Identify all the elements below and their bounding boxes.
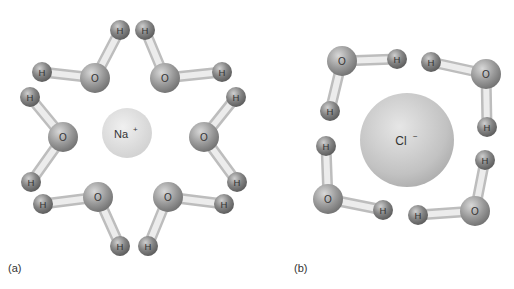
oxygen-label: O (161, 73, 169, 84)
ion-charge: + (133, 125, 138, 134)
hydrogen-label: H (323, 141, 330, 152)
hydrogen-label: H (27, 92, 34, 103)
hydrogen-label: H (117, 241, 124, 252)
ion-label: Cl (395, 134, 406, 148)
ion-charge: − (413, 132, 418, 141)
hydrogen-label: H (394, 54, 401, 65)
sodium-ion: Na+ (102, 108, 152, 158)
hydrogen-label: H (117, 25, 124, 36)
water-molecule: OHH (189, 87, 247, 192)
hydrogen-label: H (482, 155, 489, 166)
hydrogen-label: H (39, 67, 46, 78)
hydration-svg: Na+Cl− OHHOHHOHHOHHOHHOHHOHHOHHOHHOHH (0, 0, 514, 289)
oxygen-label: O (471, 206, 479, 217)
hydrogen-label: H (415, 210, 422, 221)
water-molecule: OHH (20, 87, 78, 192)
oxygen-label: O (91, 73, 99, 84)
oxygen-label: O (59, 132, 67, 143)
oxygen-label: O (482, 69, 490, 80)
hydrogen-label: H (142, 25, 149, 36)
hydrogen-label: H (219, 67, 226, 78)
hydrogen-label: H (428, 57, 435, 68)
water-molecule: OHH (135, 20, 232, 93)
oxygen-label: O (324, 194, 332, 205)
water-molecule: OHH (33, 182, 130, 256)
oxygen-label: O (94, 192, 102, 203)
panel-a-caption: (a) (8, 262, 21, 274)
hydrogen-label: H (484, 122, 491, 133)
hydrogen-label: H (233, 92, 240, 103)
hydrogen-label: H (28, 177, 35, 188)
oxygen-label: O (338, 56, 346, 67)
ion-label: Na (114, 128, 129, 140)
water-molecule: OHH (138, 182, 234, 256)
chloride-ion: Cl− (360, 93, 454, 187)
hydrogen-label: H (221, 199, 228, 210)
hydration-diagram: Na+Cl− OHHOHHOHHOHHOHHOHHOHHOHHOHHOHH (a… (0, 0, 514, 289)
water-molecule: OHH (32, 20, 130, 93)
hydrogen-label: H (380, 205, 387, 216)
hydrogen-label: H (327, 106, 334, 117)
hydrogen-label: H (234, 177, 241, 188)
hydrogen-label: H (40, 199, 47, 210)
oxygen-label: O (164, 192, 172, 203)
oxygen-label: O (200, 132, 208, 143)
panel-b-caption: (b) (294, 262, 307, 274)
hydrogen-label: H (145, 241, 152, 252)
